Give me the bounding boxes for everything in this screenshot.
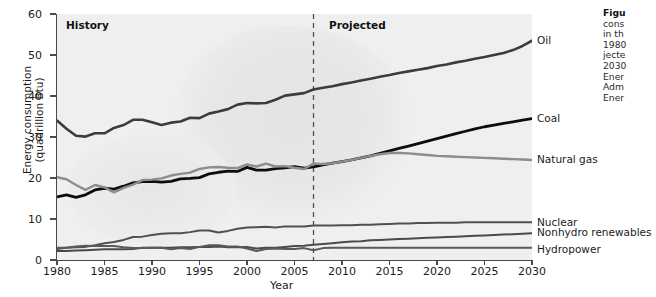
y-axis-title: Energy consumption (quadrillion Btu) [21, 40, 45, 200]
series-label-coal: Coal [537, 113, 560, 124]
y-tick-label-60: 60 [0, 9, 42, 20]
y-tick-40 [50, 95, 56, 96]
x-tick-label-2005: 2005 [271, 266, 319, 277]
x-tick-label-2020: 2020 [413, 266, 461, 277]
caption-line-1: Figu [603, 8, 626, 18]
y-tick-30 [50, 136, 56, 137]
x-axis-title: Year [270, 280, 293, 291]
history-label: History [66, 20, 109, 31]
series-line-natural-gas [57, 153, 532, 192]
figure-caption: Figu cons in th 1980 jecte 2030 Ener Adm… [603, 8, 656, 118]
x-tick-label-1995: 1995 [176, 266, 224, 277]
caption-line-7: Ener [603, 71, 624, 82]
x-tick-label-1980: 1980 [33, 266, 81, 277]
caption-line-4: 1980 [603, 39, 626, 50]
series-label-oil: Oil [537, 35, 551, 46]
x-tick-label-2010: 2010 [318, 266, 366, 277]
y-axis-title-line2: (quadrillion Btu) [33, 78, 45, 163]
plot-area [57, 14, 532, 260]
series-line-oil [57, 41, 532, 137]
y-tick-60 [50, 13, 56, 14]
caption-line-8: Adm [603, 81, 624, 92]
x-tick-label-1985: 1985 [81, 266, 129, 277]
x-tick-label-2025: 2025 [461, 266, 509, 277]
projected-label: Projected [329, 20, 386, 31]
y-tick-label-0: 0 [0, 255, 42, 266]
x-tick-label-2015: 2015 [366, 266, 414, 277]
y-tick-0 [50, 259, 56, 260]
caption-line-2: cons [603, 18, 624, 29]
series-label-natural-gas: Natural gas [537, 154, 598, 165]
series-label-hydropower: Hydropower [537, 244, 601, 255]
y-axis-line [56, 14, 57, 261]
y-axis-title-line1: Energy consumption [21, 66, 33, 174]
y-tick-label-10: 10 [0, 214, 42, 225]
caption-line-3: in th [603, 28, 624, 39]
caption-line-9: Ener [603, 92, 624, 103]
y-tick-10 [50, 218, 56, 219]
x-tick-label-1990: 1990 [128, 266, 176, 277]
caption-line-5: jecte [603, 49, 626, 60]
y-tick-50 [50, 54, 56, 55]
series-label-nonhydro-renewables: Nonhydro renewables [537, 227, 652, 238]
chart-lines [57, 14, 532, 260]
y-tick-20 [50, 177, 56, 178]
caption-line-6: 2030 [603, 60, 626, 71]
x-tick-label-2030: 2030 [508, 266, 556, 277]
x-tick-label-2000: 2000 [223, 266, 271, 277]
